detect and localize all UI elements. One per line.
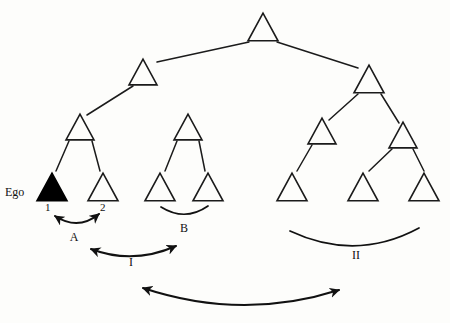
ego-node: [37, 173, 67, 201]
link-left-to-l2a: [87, 86, 133, 115]
group-ii-node-right: [409, 173, 439, 201]
link-root-to-right: [277, 42, 358, 68]
group-b-node-left: [145, 173, 175, 201]
relation-arc-i: [91, 246, 176, 256]
link-l2a-to-ego: [56, 141, 69, 171]
link-l2a-to-sib2: [92, 141, 100, 171]
relation-arc-bottom: [143, 288, 339, 305]
lineage-d-parent: [389, 122, 417, 148]
lineage-a-parent: [66, 114, 94, 140]
link-l2d-to-c3: [413, 149, 424, 171]
kinship-diagram-canvas: ABIII Ego 1 2: [0, 0, 450, 323]
relationship-arcs-layer: ABIII: [55, 206, 419, 305]
root-node: [248, 13, 278, 41]
left-branch-node: [129, 59, 157, 85]
link-l2d-to-c2: [369, 149, 392, 171]
link-right-to-l2d: [381, 94, 399, 123]
relation-arc-ii: [290, 228, 419, 246]
node-1-label: 1: [45, 201, 51, 213]
node-2-label: 2: [100, 201, 106, 213]
group-ii-node-mid: [348, 173, 378, 201]
lineage-b-parent: [174, 114, 202, 140]
group-ii-node-left: [277, 173, 307, 201]
descent-links-layer: [56, 42, 424, 171]
kinship-diagram: ABIII Ego 1 2: [0, 0, 450, 323]
sibling-node-2: [88, 173, 118, 201]
link-right-to-l2c: [329, 94, 358, 120]
ego-label: Ego: [5, 185, 24, 199]
link-l2b-to-b2: [199, 141, 205, 171]
relation-arc-a: [55, 214, 99, 223]
relation-arc-b-label: B: [180, 221, 188, 235]
relation-arc-ii-label: II: [352, 248, 360, 262]
right-branch-node: [354, 65, 384, 93]
link-l2c-to-c1: [297, 145, 312, 171]
relation-arc-i-label: I: [129, 255, 133, 269]
link-root-to-left: [157, 42, 249, 62]
relation-arc-a-label: A: [70, 230, 79, 244]
relation-arc-b: [161, 206, 208, 214]
group-b-node-right: [193, 173, 223, 201]
lineage-c-parent: [308, 118, 336, 144]
descent-nodes-layer: [37, 13, 439, 201]
link-l2b-to-b1: [165, 141, 177, 171]
